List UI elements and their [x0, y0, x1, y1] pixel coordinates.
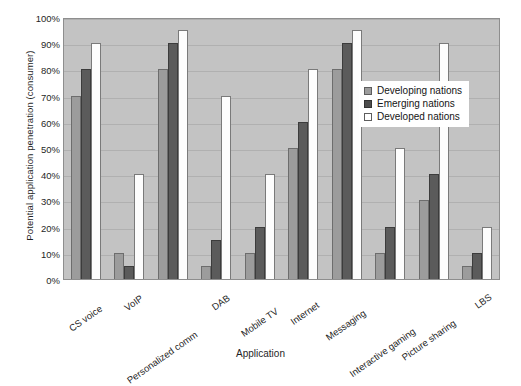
plot-area: [63, 18, 500, 280]
bar-group: [456, 19, 500, 279]
x-axis-tick: Messaging: [324, 307, 368, 342]
bar[interactable]: [91, 43, 101, 279]
x-axis-tick: DAB: [209, 292, 231, 312]
y-axis-tick: 100%: [22, 13, 60, 24]
y-axis-tick: 80%: [22, 65, 60, 76]
bar[interactable]: [201, 266, 211, 279]
x-axis-title: Application: [0, 348, 521, 359]
y-axis-tick: 90%: [22, 39, 60, 50]
bar[interactable]: [265, 174, 275, 279]
legend-swatch-icon: [364, 113, 372, 121]
y-axis-tick-labels: 0%10%20%30%40%50%60%70%80%90%100%: [22, 18, 60, 280]
legend-label: Developing nations: [377, 85, 462, 96]
legend-swatch-icon: [364, 100, 372, 108]
legend-label: Developed nations: [377, 111, 460, 122]
bar[interactable]: [255, 227, 265, 279]
y-axis-tick: 10%: [22, 248, 60, 259]
x-axis-tick: LBS: [473, 291, 494, 310]
bar[interactable]: [221, 96, 231, 279]
legend-swatch-icon: [364, 87, 372, 95]
bar[interactable]: [134, 174, 144, 279]
bar-group: [195, 19, 239, 279]
legend-item: Emerging nations: [364, 97, 462, 110]
y-axis-tick: 50%: [22, 144, 60, 155]
x-axis-tick: Internet: [289, 299, 322, 326]
bar[interactable]: [395, 148, 405, 279]
bar-group: [282, 19, 326, 279]
bar[interactable]: [124, 266, 134, 279]
y-axis-tick: 30%: [22, 196, 60, 207]
bar[interactable]: [114, 253, 124, 279]
legend-item: Developing nations: [364, 84, 462, 97]
bar[interactable]: [419, 200, 429, 279]
legend-label: Emerging nations: [377, 98, 455, 109]
bar[interactable]: [158, 69, 168, 279]
y-axis-tick: 70%: [22, 91, 60, 102]
bar-group: [151, 19, 195, 279]
bar[interactable]: [308, 69, 318, 279]
bar[interactable]: [71, 96, 81, 279]
bar[interactable]: [462, 266, 472, 279]
bar-group: [325, 19, 369, 279]
chart-legend: Developing nationsEmerging nationsDevelo…: [359, 81, 469, 127]
bar[interactable]: [342, 43, 352, 279]
bar-group: [369, 19, 413, 279]
x-axis-tick: CS voice: [67, 303, 104, 334]
bar[interactable]: [245, 253, 255, 279]
bar[interactable]: [81, 69, 91, 279]
y-axis-tick: 0%: [22, 275, 60, 286]
bars-layer: [64, 19, 499, 279]
bar[interactable]: [482, 227, 492, 279]
bar[interactable]: [472, 253, 482, 279]
y-axis-tick: 60%: [22, 117, 60, 128]
legend-item: Developed nations: [364, 110, 462, 123]
bar[interactable]: [352, 30, 362, 279]
y-axis-tick: 20%: [22, 222, 60, 233]
bar[interactable]: [332, 69, 342, 279]
bar-group: [238, 19, 282, 279]
x-axis-tick: Mobile TV: [238, 305, 279, 338]
bar-group: [64, 19, 108, 279]
bar[interactable]: [178, 30, 188, 279]
bar-group: [412, 19, 456, 279]
bar[interactable]: [385, 227, 395, 279]
y-axis-tick: 40%: [22, 170, 60, 181]
x-axis-tick: VoIP: [122, 293, 145, 314]
bar[interactable]: [439, 43, 449, 279]
bar[interactable]: [168, 43, 178, 279]
bar[interactable]: [211, 240, 221, 279]
bar[interactable]: [375, 253, 385, 279]
bar[interactable]: [288, 148, 298, 279]
bar-group: [108, 19, 152, 279]
bar[interactable]: [298, 122, 308, 279]
bar[interactable]: [429, 174, 439, 279]
